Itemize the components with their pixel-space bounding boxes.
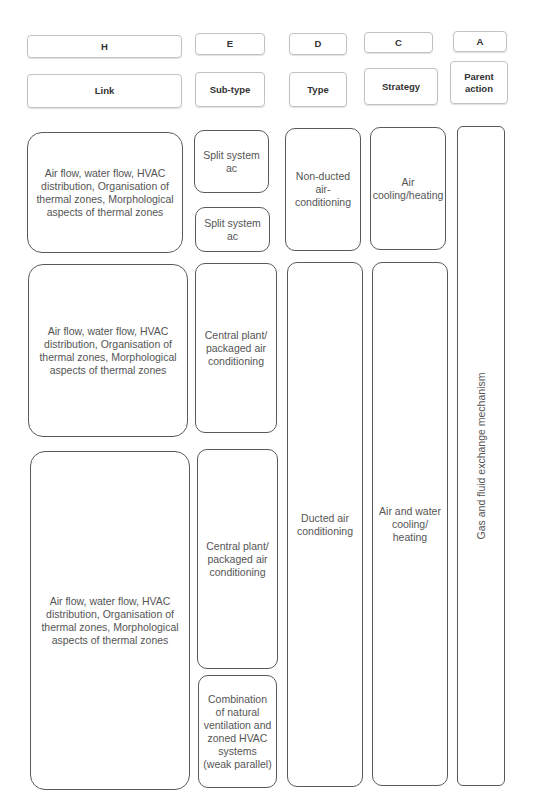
column-label-link: Link (27, 74, 182, 108)
node-text: Central plant/ packaged air conditioning (206, 540, 268, 579)
node-text: Split system ac (203, 149, 260, 175)
node-text: Non-ducted air- conditioning (295, 170, 351, 209)
node-text: Combination of natural ventilation and z… (203, 693, 271, 771)
column-letter-d: D (289, 33, 347, 55)
node-text: Air flow, water flow, HVAC distribution,… (41, 595, 178, 647)
node-text: Split system ac (204, 217, 261, 243)
strategy-node-1: Air cooling/heating (370, 127, 446, 250)
sub-type-node-3: Central plant/ packaged air conditioning (195, 263, 277, 433)
column-letter-text: E (227, 38, 233, 50)
column-letter-text: A (477, 36, 484, 48)
column-letter-h: H (27, 35, 182, 58)
link-node-1: Air flow, water flow, HVAC distribution,… (27, 132, 183, 253)
type-node-1: Non-ducted air- conditioning (285, 128, 361, 251)
node-text: Central plant/ packaged air conditioning (205, 329, 267, 368)
column-label-text: Type (307, 84, 328, 96)
sub-type-node-1: Split system ac (194, 130, 269, 193)
parent-action-node: Gas and fluid exchange mechanism (457, 126, 505, 786)
column-letter-a: A (453, 31, 507, 52)
column-letter-text: H (101, 41, 108, 53)
type-node-2: Ducted air conditioning (287, 262, 363, 787)
column-label-text: Strategy (382, 81, 420, 93)
link-node-3: Air flow, water flow, HVAC distribution,… (30, 451, 190, 790)
sub-type-node-4: Central plant/ packaged air conditioning (197, 449, 278, 669)
column-label-type: Type (289, 72, 347, 107)
column-label-text: Sub-type (210, 84, 251, 96)
column-label-text: Parent action (464, 71, 494, 95)
node-text: Air and water cooling/ heating (379, 505, 441, 544)
sub-type-node-5: Combination of natural ventilation and z… (198, 675, 277, 788)
node-text: Air flow, water flow, HVAC distribution,… (36, 167, 173, 219)
column-label-parent-action: Parent action (450, 61, 508, 104)
sub-type-node-2: Split system ac (195, 207, 270, 252)
strategy-node-2: Air and water cooling/ heating (372, 262, 448, 786)
column-label-strategy: Strategy (364, 68, 438, 105)
node-text: Ducted air conditioning (297, 512, 353, 538)
node-text: Air cooling/heating (373, 176, 444, 202)
column-letter-text: C (395, 37, 402, 49)
column-label-text: Link (95, 85, 115, 97)
node-text-vertical: Gas and fluid exchange mechanism (475, 373, 488, 540)
column-letter-c: C (364, 32, 433, 53)
node-text: Air flow, water flow, HVAC distribution,… (39, 325, 176, 377)
column-label-sub-type: Sub-type (195, 72, 265, 107)
column-letter-text: D (315, 38, 322, 50)
link-node-2: Air flow, water flow, HVAC distribution,… (28, 264, 188, 437)
column-letter-e: E (195, 33, 265, 55)
